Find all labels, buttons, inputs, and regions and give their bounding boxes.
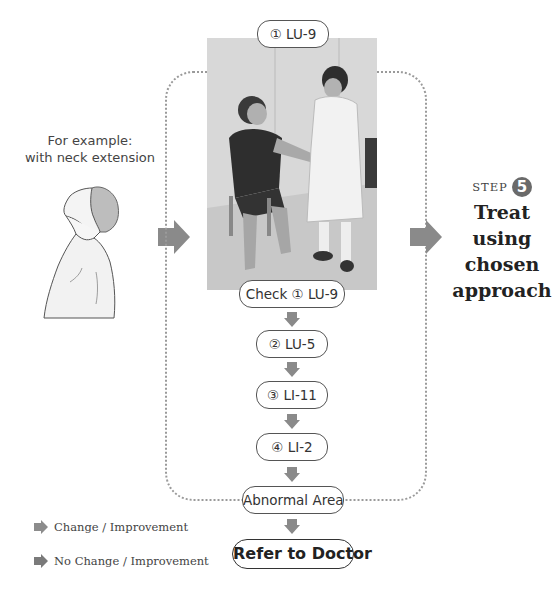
- legend-item: No Change / Improvement: [34, 552, 209, 570]
- example-caption-line1: For example:: [20, 132, 160, 149]
- step-title-line: using: [450, 225, 554, 251]
- step-number-badge: 5: [512, 177, 532, 197]
- legend-label: No Change / Improvement: [54, 554, 209, 568]
- legend-label: Change / Improvement: [54, 520, 188, 534]
- step-abnormal-area: Abnormal Area: [242, 486, 344, 514]
- step-lu5-text: ② LU-5: [269, 336, 316, 352]
- step-title: Treat using chosen approach: [450, 199, 554, 303]
- point-lu9-label: ① LU-9: [257, 20, 329, 48]
- arrow-down-icon: [284, 312, 300, 327]
- example-caption-line2: with neck extension: [20, 149, 160, 166]
- arrow-right-icon: [34, 520, 48, 534]
- step-prefix: STEP: [472, 180, 508, 194]
- arrow-down-icon: [284, 467, 300, 482]
- refer-to-doctor-box: Refer to Doctor: [232, 539, 354, 569]
- step-check-lu9: Check ① LU-9: [239, 280, 345, 308]
- refer-to-doctor-text: Refer to Doctor: [233, 544, 372, 563]
- step-title-line: Treat: [450, 199, 554, 225]
- step-title-line: chosen: [450, 251, 554, 277]
- arrow-down-icon: [284, 414, 300, 429]
- legend: Change / Improvement No Change / Improve…: [34, 518, 209, 570]
- step-li11-text: ③ LI-11: [267, 387, 317, 403]
- step-header: STEP5: [450, 176, 554, 197]
- treatment-photo: [207, 38, 377, 290]
- point-lu9-text: ① LU-9: [270, 26, 317, 42]
- arrow-right-icon: [410, 220, 442, 254]
- arrow-down-icon: [284, 362, 300, 377]
- arrow-right-icon: [34, 554, 48, 568]
- step-lu5: ② LU-5: [256, 330, 328, 358]
- step-5-block: STEP5 Treat using chosen approach: [450, 176, 554, 303]
- example-caption: For example: with neck extension: [20, 132, 160, 166]
- arrow-down-icon: [284, 519, 300, 534]
- step-li2: ④ LI-2: [256, 433, 328, 461]
- step-li11: ③ LI-11: [256, 381, 328, 409]
- step-abnormal-area-text: Abnormal Area: [243, 492, 343, 508]
- step-li2-text: ④ LI-2: [271, 439, 312, 455]
- step-check-lu9-text: Check ① LU-9: [246, 286, 338, 302]
- photo-scene: [207, 38, 377, 290]
- legend-item: Change / Improvement: [34, 518, 209, 536]
- step-title-line: approach: [450, 277, 554, 303]
- neck-extension-illustration: [30, 182, 130, 322]
